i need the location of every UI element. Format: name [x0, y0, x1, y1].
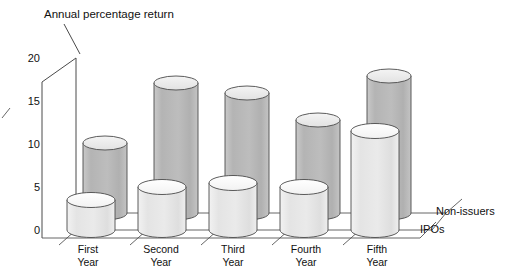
cat-label-third-year-line2: Year: [222, 256, 244, 268]
edge-artifact-mark: [2, 108, 10, 118]
y-axis-ticks: 20 15 10 5 0: [28, 52, 40, 236]
cat-label-second-year-line2: Year: [150, 256, 172, 268]
cylinder-ipos-fourth-year[interactable]: [280, 180, 328, 238]
axis-title: Annual percentage return: [44, 8, 174, 20]
cat-label-second-year-line1: Second: [143, 243, 179, 255]
cylinder-ipos-third-year[interactable]: [209, 176, 257, 238]
cylinder-ipos-first-year[interactable]: [67, 193, 115, 238]
cat-label-first-year-line2: Year: [77, 256, 99, 268]
cylinder-ipos-second-year[interactable]: [138, 180, 186, 238]
y-tick-5: 5: [34, 181, 40, 193]
y-tick-0: 0: [34, 224, 40, 236]
legend-entry-ipos[interactable]: IPOs: [420, 223, 445, 235]
cat-label-fourth-year-line2: Year: [295, 256, 317, 268]
cat-label-first-year-line1: First: [78, 243, 98, 255]
y-tick-15: 15: [28, 95, 40, 107]
cat-label-fifth-year-line2: Year: [366, 256, 388, 268]
y-tick-10: 10: [28, 138, 40, 150]
legend-entry-non-issuers[interactable]: Non-issuers: [436, 205, 495, 217]
cat-label-fourth-year-line1: Fourth: [291, 243, 322, 255]
cylinder-chart-3d: Annual percentage return 20 15 10 5 0: [0, 0, 512, 277]
chart-container: Annual percentage return 20 15 10 5 0: [0, 0, 512, 277]
cat-label-third-year-line1: Third: [221, 243, 245, 255]
wall-top-edge: [42, 58, 76, 82]
chart-legend: Non-issuers IPOs: [420, 205, 495, 235]
cylinder-ipos-fifth-year[interactable]: [351, 124, 399, 238]
cat-label-fifth-year-line1: Fifth: [367, 243, 388, 255]
axis-title-leader-line: [64, 24, 80, 54]
x-axis-labels: First Year Second Year Third Year Fourth…: [77, 243, 388, 268]
y-tick-20: 20: [28, 52, 40, 64]
